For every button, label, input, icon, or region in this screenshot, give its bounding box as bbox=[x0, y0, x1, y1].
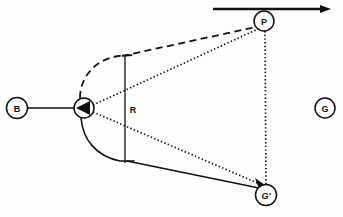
node-vertex bbox=[74, 98, 94, 118]
node-g-prime-label: G' bbox=[261, 191, 271, 201]
figure-root: B P G' G R bbox=[0, 0, 343, 217]
arrowhead-motion-right bbox=[320, 5, 331, 13]
diagram-canvas: B P G' G R bbox=[0, 0, 343, 217]
node-b-label: B bbox=[14, 104, 21, 114]
node-b: B bbox=[7, 98, 28, 119]
edge-dashed-arc-to-p bbox=[122, 27, 256, 56]
edge-dotted-vertex-to-gprime bbox=[93, 112, 262, 185]
edge-solid-arc bbox=[81, 118, 134, 161]
edge-dotted-vertex-to-p bbox=[93, 29, 258, 105]
radius-label-r: R bbox=[130, 105, 137, 115]
edge-solid-arc-to-gprime bbox=[127, 161, 259, 188]
node-p: P bbox=[254, 11, 274, 31]
node-g-label: G bbox=[321, 104, 328, 114]
node-p-label: P bbox=[261, 17, 267, 27]
node-g-prime: G' bbox=[256, 185, 277, 206]
node-g: G bbox=[315, 98, 335, 118]
edge-dotted-p-to-gprime bbox=[265, 31, 266, 184]
